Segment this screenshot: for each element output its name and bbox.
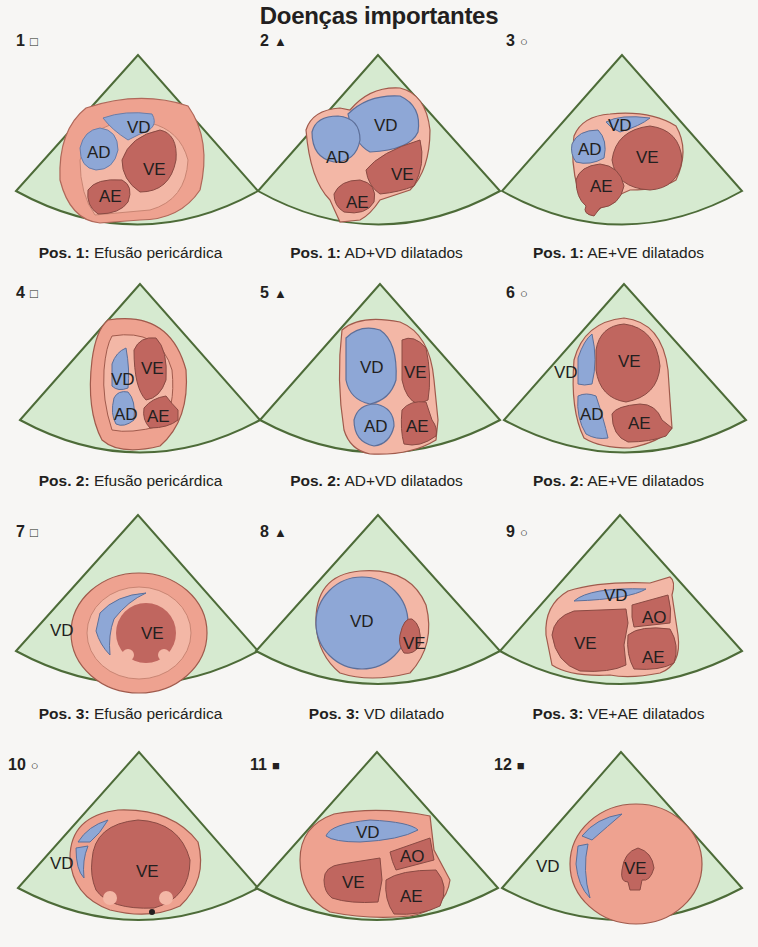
label-vd: VD bbox=[374, 116, 398, 135]
label-ae: AE bbox=[400, 887, 423, 906]
caption: Pos. 1: AD+VD dilatados bbox=[250, 244, 503, 262]
dot-marker bbox=[149, 909, 155, 915]
label-ae: AE bbox=[628, 414, 651, 433]
echo-sector-diagram: VD VE bbox=[500, 730, 753, 947]
label-ad: AD bbox=[87, 143, 111, 162]
panel-8: 8▲ VD VE Pos. 3: VD dilatado bbox=[250, 505, 503, 735]
label-vd: VD bbox=[356, 823, 380, 842]
caption: Pos. 3: VD dilatado bbox=[250, 705, 503, 723]
panel-12: 12■ VD VE bbox=[500, 730, 753, 947]
panel-6: 6○ VD VE AD AE Pos. 2: AE+VE dilatados bbox=[500, 270, 753, 510]
label-vd: VD bbox=[536, 857, 560, 876]
caption: Pos. 2: AE+VE dilatados bbox=[492, 472, 745, 490]
panel-1: 1□ VD AD VE AE Pos. 1: Efusão pericárdic… bbox=[0, 30, 253, 270]
caption: Pos. 1: Efusão pericárdica bbox=[4, 244, 257, 262]
label-ae: AE bbox=[590, 177, 613, 196]
label-ae: AE bbox=[406, 417, 429, 436]
caption: Pos. 1: AE+VE dilatados bbox=[492, 244, 745, 262]
label-vd: VD bbox=[111, 370, 135, 389]
label-ve: VE bbox=[636, 148, 659, 167]
label-ae: AE bbox=[346, 193, 369, 212]
echo-sector-diagram: VD VE bbox=[0, 730, 253, 947]
label-ad: AD bbox=[114, 405, 138, 424]
label-ve: VE bbox=[403, 634, 426, 653]
label-vd: VD bbox=[604, 586, 628, 605]
page-title: Doenças importantes bbox=[0, 2, 758, 30]
panel-3: 3○ VD AD VE AE Pos. 1: AE+VE dilatados bbox=[500, 30, 753, 270]
label-ve: VE bbox=[141, 359, 164, 378]
label-ve: VE bbox=[342, 873, 365, 892]
echo-sector-diagram: VD AD VE AE bbox=[0, 30, 253, 245]
caption: Pos. 2: Efusão pericárdica bbox=[4, 472, 257, 490]
label-ve: VE bbox=[624, 859, 647, 878]
label-vd: VD bbox=[360, 358, 384, 377]
echo-sector-diagram: VD AO VE AE bbox=[500, 505, 753, 720]
caption: Pos. 2: AD+VD dilatados bbox=[250, 472, 503, 490]
label-ae: AE bbox=[147, 407, 170, 426]
label-vd: VD bbox=[127, 118, 151, 137]
label-ve: VE bbox=[143, 160, 166, 179]
echo-sector-diagram: VD VE bbox=[0, 505, 253, 720]
echo-sector-diagram: VD AD VE AE bbox=[500, 30, 753, 245]
echo-sector-diagram: VD VE AD AE bbox=[500, 270, 753, 485]
label-ao: AO bbox=[642, 608, 667, 627]
label-ad: AD bbox=[580, 405, 604, 424]
echo-sector-diagram: VD VE AD AE bbox=[0, 270, 253, 485]
echo-sector-diagram: VD VE AD AE bbox=[250, 270, 503, 485]
label-ad: AD bbox=[364, 417, 388, 436]
panel-11: 11■ VD AO VE AE bbox=[250, 730, 503, 947]
label-ve: VE bbox=[574, 634, 597, 653]
panel-10: 10○ VD VE bbox=[0, 730, 253, 947]
label-ve: VE bbox=[141, 624, 164, 643]
label-ve: VE bbox=[136, 862, 159, 881]
caption: Pos. 3: Efusão pericárdica bbox=[4, 705, 257, 723]
echo-sector-diagram: VD AD VE AE bbox=[250, 30, 503, 245]
panel-2: 2▲ VD AD VE AE Pos. 1: AD+VD dilatados bbox=[250, 30, 503, 270]
label-vd: VD bbox=[608, 116, 632, 135]
caption: Pos. 3: VE+AE dilatados bbox=[492, 705, 745, 723]
label-ao: AO bbox=[400, 847, 425, 866]
panel-7: 7□ VD VE Pos. 3: Efusão pericárdica bbox=[0, 505, 253, 735]
panel-5: 5▲ VD VE AD AE Pos. 2: AD+VD dilatados bbox=[250, 270, 503, 510]
panel-9: 9○ VD AO VE AE Pos. 3: VE+AE dilatados bbox=[500, 505, 753, 735]
label-ve: VE bbox=[391, 165, 414, 184]
echo-sector-diagram: VD AO VE AE bbox=[250, 730, 503, 947]
label-vd: VD bbox=[554, 363, 578, 382]
panel-4: 4□ VD VE AD AE Pos. 2: Efusão pericárdic… bbox=[0, 270, 253, 510]
label-ve: VE bbox=[404, 363, 427, 382]
label-ae: AE bbox=[99, 187, 122, 206]
label-ad: AD bbox=[326, 148, 350, 167]
label-vd: VD bbox=[350, 612, 374, 631]
label-ve: VE bbox=[618, 352, 641, 371]
label-ad: AD bbox=[578, 140, 602, 159]
label-vd: VD bbox=[50, 621, 74, 640]
label-ae: AE bbox=[642, 648, 665, 667]
label-vd: VD bbox=[50, 854, 74, 873]
echo-sector-diagram: VD VE bbox=[250, 505, 503, 720]
